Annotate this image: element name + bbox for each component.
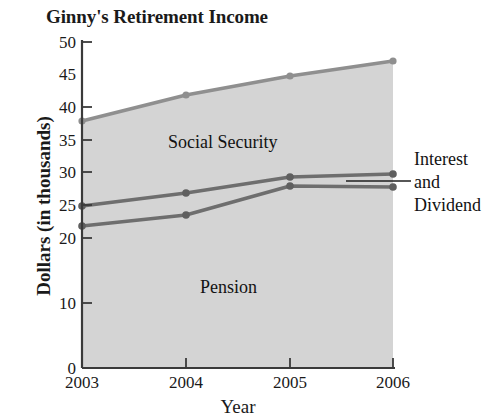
y-tick-label-10: 10 <box>42 295 76 312</box>
x-tick-label-2005: 2005 <box>260 374 320 391</box>
y-tick-label-30: 30 <box>42 164 76 181</box>
callout-line-3: Dividend <box>414 194 481 217</box>
callout-interest-and-dividend: Interest and Dividend <box>414 148 481 217</box>
y-tick-label-20: 20 <box>42 230 76 247</box>
y-tick-label-25: 25 <box>42 197 76 214</box>
y-tick-label-50: 50 <box>42 34 76 51</box>
area-fill-total <box>82 61 393 368</box>
chart-figure: Ginny's Retirement Income Dollars (in th… <box>0 0 502 418</box>
x-tick-label-2006: 2006 <box>363 374 423 391</box>
area-label-social-security: Social Security <box>168 132 277 153</box>
x-tick-label-2003: 2003 <box>52 374 112 391</box>
y-tick-label-40: 40 <box>42 99 76 116</box>
callout-line-2: and <box>414 171 481 194</box>
y-tick-label-45: 45 <box>42 66 76 83</box>
area-label-pension: Pension <box>200 277 257 298</box>
y-tick-label-35: 35 <box>42 132 76 149</box>
x-tick-label-2004: 2004 <box>156 374 216 391</box>
callout-line-1: Interest <box>414 148 481 171</box>
